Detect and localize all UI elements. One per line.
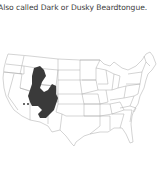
range-dot xyxy=(27,103,29,105)
us-map-graphic xyxy=(0,50,161,150)
range-map xyxy=(0,50,161,150)
state-outlines xyxy=(3,52,156,146)
range-shading xyxy=(28,66,58,118)
species-caption: Also called Dark or Dusky Beardtongue. xyxy=(0,3,147,12)
range-dot xyxy=(23,103,25,105)
